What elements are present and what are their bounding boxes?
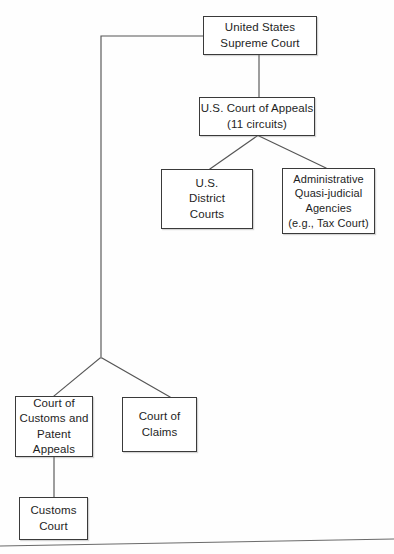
edge-branch-to-ccpa [54,358,100,396]
edge-court-of-appeals-to-admin-agencies [259,136,326,168]
node-customs-court[interactable]: Customs Court [19,497,88,540]
node-court-of-appeals[interactable]: U.S. Court of Appeals (11 circuits) [199,97,315,136]
node-court-of-claims[interactable]: Court of Claims [122,397,197,452]
node-administrative-agencies[interactable]: Administrative Quasi-judicial Agencies (… [282,168,375,234]
court-system-diagram-page: United States Supreme Court U.S. Court o… [0,0,394,554]
page-bottom-rule [0,539,394,546]
node-court-of-customs-and-patent-appeals[interactable]: Court of Customs and Patent Appeals [15,396,93,457]
node-district-courts[interactable]: U.S. District Courts [161,169,253,229]
edge-branch-to-court-of-claims [102,358,170,397]
connector-lines [0,0,394,554]
node-supreme-court[interactable]: United States Supreme Court [203,16,317,55]
edge-court-of-appeals-to-district-courts [210,136,257,169]
